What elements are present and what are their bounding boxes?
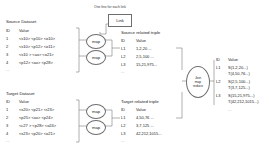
link-box[interactable]: Link [108,14,132,27]
source-dataset-header-value: Value [19,29,29,33]
link-box-label: Link [116,18,124,23]
diagram-connectors [0,0,264,152]
table-row: <p12> <ax> <p28> [19,61,53,65]
joined-result-header-id: ID [216,58,220,62]
source-dataset-title: Source Dataset [6,20,36,24]
target-dataset-title: Target Dataset [6,92,35,96]
table-row: L1 [121,47,125,51]
table-row: <p25> <ax> <p24> [19,116,53,120]
target-related-header-value: Value [136,108,146,112]
source-dataset-ellipsis: ... [6,68,10,72]
table-row: L3 [121,63,125,67]
table-row: 2 [6,116,8,120]
table-row: L1 [121,116,125,120]
table-row: 3,7,125 ... [136,124,154,128]
table-row: S(2,5,100...) [228,80,250,84]
map-node-label: map [92,39,100,44]
table-row: L2 [121,55,125,59]
target-related-title: Target related triple [121,100,159,104]
link-caption: One line for each link [94,6,126,9]
table-row: <s20> <p21> <r23> [19,108,54,112]
table-row: 1,2,20 ... [136,47,152,51]
map-node-target-1[interactable]: map [86,104,106,119]
table-row: 42,212,1015... [136,132,162,136]
map-node-label: map [92,55,100,60]
table-row: L2 [121,124,125,128]
table-row: T(3,7,125...) [228,86,250,90]
table-row: 4 [6,132,8,136]
table-row: 3 [6,53,8,57]
map-node-label: map [92,109,100,114]
source-related-header-value: Value [136,39,146,43]
table-row: 1 [6,37,8,41]
table-row: 4 [6,61,8,65]
table-row: <s10> <p10> <o10> [19,37,55,41]
target-related-header-id: ID [121,108,125,112]
map-node-source-1[interactable]: map [86,34,106,49]
target-dataset-header-id: ID [6,100,10,104]
target-dataset-header-value: Value [19,100,29,104]
source-related-title: Source related triple [121,31,160,35]
table-row: L1 [216,66,220,70]
target-dataset-ellipsis: ... [6,139,10,143]
joined-result-ellipsis: ... [228,108,232,112]
table-row: <s10 > <ax> <o21> [19,53,54,57]
table-row: 3 [6,124,8,128]
table-row: 2 [6,45,8,49]
map-node-source-2[interactable]: map [86,50,106,65]
table-row: T(4,50,76...) [228,72,250,76]
source-related-header-id: ID [121,39,125,43]
join-label-line3: reduce [193,84,203,88]
target-related-ellipsis: ... [121,139,125,143]
table-row: 1 [6,108,8,112]
map-node-label: map [92,125,100,130]
table-row: L3 [216,94,220,98]
source-dataset-header-id: ID [6,29,10,33]
table-row: <c27 > <p28> <o24> [19,124,56,128]
table-row: S(15,21,975...) [228,94,254,98]
joined-result-header-value: Value [228,58,238,62]
table-row: L2 [216,80,220,84]
table-row: 4,50,76 ... [136,116,154,120]
table-row: 15,21,975... [136,63,157,67]
map-node-target-2[interactable]: map [86,120,106,135]
table-row: S(1,2,20...) [228,66,248,70]
join-map-reduce-node[interactable]: Join map reduce [186,66,210,98]
table-row: <s10> <p12> <o11> [19,45,55,49]
table-row: <s23> <p20> <o21> [19,132,55,136]
table-row: T(42,212,1015...) [228,100,259,104]
table-row: 2,5,100 ... [136,55,154,59]
table-row: L3 [121,132,125,136]
source-related-ellipsis: ... [121,70,125,74]
